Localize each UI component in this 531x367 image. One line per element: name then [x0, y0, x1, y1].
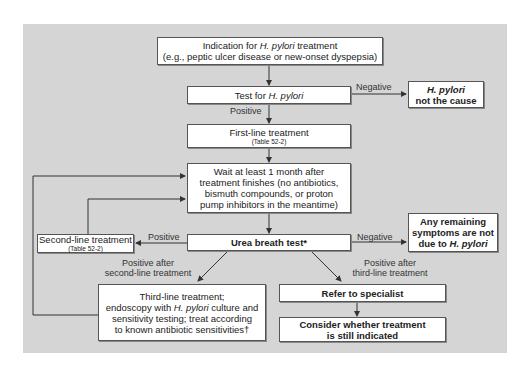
remaining-line2: symptoms are not: [412, 227, 494, 238]
second-line-title: Second-line treatment: [39, 235, 132, 245]
wait-line3: bismuth compounds, or proton: [205, 188, 333, 199]
edge-label-after-third: Positive after third-line treatment: [342, 258, 438, 278]
wait-line1: Wait at least 1 month after: [214, 166, 325, 177]
edge-label-positive-urea: Positive: [148, 232, 180, 242]
second-line-ref: (Table 52-2): [68, 245, 103, 252]
third-line-node: Third-line treatment; endoscopy with H. …: [98, 284, 266, 341]
indication-line2: (e.g., peptic ulcer disease or new-onset…: [163, 51, 377, 62]
edge-label-after-second: Positive after second-line treatment: [100, 258, 196, 278]
refer-label: Refer to specialist: [322, 288, 404, 299]
not-cause-line2: not the cause: [415, 95, 476, 106]
urea-node: Urea breath test*: [187, 234, 351, 251]
edge-label-negative-test: Negative: [356, 82, 392, 92]
refer-node: Refer to specialist: [279, 284, 446, 302]
indication-node: Indication for H. pylori treatment (e.g.…: [157, 37, 383, 65]
second-line-node: Second-line treatment (Table 52-2): [37, 234, 134, 253]
remaining-line1: Any remaining: [420, 216, 486, 227]
consider-node: Consider whether treatment is still indi…: [279, 317, 446, 342]
first-line-title: First-line treatment: [229, 127, 308, 138]
consider-line1: Consider whether treatment: [299, 319, 425, 330]
not-cause-node: H. pylori not the cause: [408, 81, 484, 108]
first-line-node: First-line treatment (Table 52-2): [187, 124, 351, 148]
test-node: Test for H. pylori: [187, 86, 351, 104]
consider-line2: is still indicated: [327, 330, 398, 341]
edge-label-positive-test: Positive: [230, 106, 262, 116]
first-line-ref: (Table 52-2): [252, 138, 287, 146]
arrow-second-line-loop: [88, 199, 185, 234]
third-line-line2: endoscopy with H. pylori culture and: [106, 302, 259, 313]
third-line-line3: sensitivity testing; treat according: [112, 313, 252, 324]
wait-node: Wait at least 1 month after treatment fi…: [187, 163, 351, 213]
arrow-urea-to-refer: [311, 251, 341, 281]
remaining-line3: due to H. pylori: [418, 238, 487, 249]
third-line-line1: Third-line treatment;: [139, 291, 224, 302]
edge-label-negative-urea: Negative: [357, 232, 393, 242]
urea-label: Urea breath test*: [231, 237, 307, 248]
wait-line2: treatment finishes (no antibiotics,: [200, 177, 339, 188]
remaining-node: Any remaining symptoms are not due to H.…: [408, 213, 498, 252]
arrow-urea-to-third-line: [198, 251, 228, 281]
wait-line4: pump inhibitors in the meantime): [200, 199, 338, 210]
indication-line1: Indication for H. pylori treatment: [203, 40, 338, 51]
test-label: Test for H. pylori: [235, 90, 304, 101]
third-line-line4: to known antibiotic sensitivities†: [115, 324, 250, 335]
not-cause-line1: H. pylori: [427, 84, 465, 95]
